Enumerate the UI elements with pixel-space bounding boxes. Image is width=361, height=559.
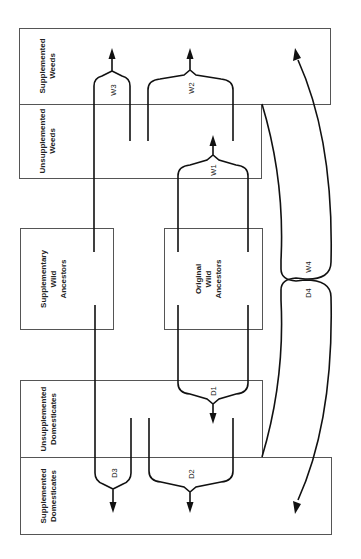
svg-text:W4: W4 [304,261,313,272]
svg-text:Wild: Wild [204,270,213,287]
svg-text:D1: D1 [209,386,218,396]
svg-text:Unsupplemented: Unsupplemented [39,386,48,451]
edge-d3: D3 [95,305,131,513]
box-supplemented-weeds [20,29,331,105]
label-unsupplemented-domesticates: Unsupplemented Domesticates [39,386,58,451]
edge-w2: W2 [148,48,233,141]
svg-text:D3: D3 [110,468,119,478]
svg-text:Supplemented: Supplemented [39,468,48,523]
edge-w4: W4 [262,48,331,457]
box-supplemented-domesticates [21,458,332,535]
label-supplementary-wild-ancestors: Supplementary Wild Ancestors [39,250,68,308]
svg-text:D2: D2 [187,469,196,479]
svg-text:Unsupplemented: Unsupplemented [38,108,47,173]
svg-text:Wild: Wild [49,270,58,287]
label-supplemented-weeds: Supplemented Weeds [38,38,57,93]
svg-text:Ancestors: Ancestors [59,259,68,299]
svg-text:Supplementary: Supplementary [39,250,48,308]
label-unsupplemented-weeds: Unsupplemented Weeds [38,108,57,173]
svg-text:Domesticates: Domesticates [49,469,58,522]
svg-text:Domesticates: Domesticates [49,392,58,445]
svg-text:W3: W3 [109,84,118,95]
edge-d1: D1 [178,305,248,424]
label-original-wild-ancestors: Original Wild Ancestors [194,259,223,299]
edge-w3: W3 [94,48,130,252]
svg-text:Ancestors: Ancestors [214,259,223,299]
svg-text:D4: D4 [304,288,313,298]
svg-text:Weeds: Weeds [48,53,57,79]
svg-text:Supplemented: Supplemented [38,38,47,93]
edge-d2: D2 [149,418,233,513]
svg-text:Original: Original [194,264,203,294]
evolution-flow-diagram: Supplemented Weeds Unsupplemented Weeds … [0,0,361,559]
svg-text:W1: W1 [209,164,218,175]
svg-text:W2: W2 [187,82,196,93]
label-supplemented-domesticates: Supplemented Domesticates [39,468,58,523]
svg-text:Weeds: Weeds [48,128,57,154]
edge-d4: D4 [262,104,331,514]
edge-w1: W1 [178,135,248,252]
